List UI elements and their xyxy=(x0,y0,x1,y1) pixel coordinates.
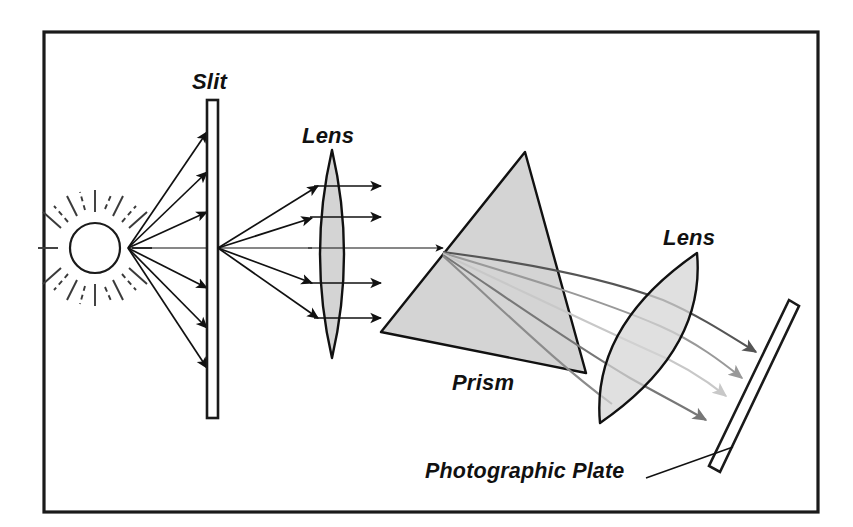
slit-bar xyxy=(207,100,218,418)
prism-label: Prism xyxy=(452,370,514,395)
lens-second-label: Lens xyxy=(663,225,715,250)
spectroscope-diagram: Slit Lens Prism xyxy=(0,0,853,527)
figure-root: Slit Lens Prism xyxy=(0,0,853,527)
slit-barrier xyxy=(207,100,218,418)
photographic-plate-label: Photographic Plate xyxy=(425,459,625,483)
sun-disc xyxy=(70,223,120,273)
slit-label: Slit xyxy=(192,69,228,94)
lens-first-label: Lens xyxy=(302,123,354,148)
